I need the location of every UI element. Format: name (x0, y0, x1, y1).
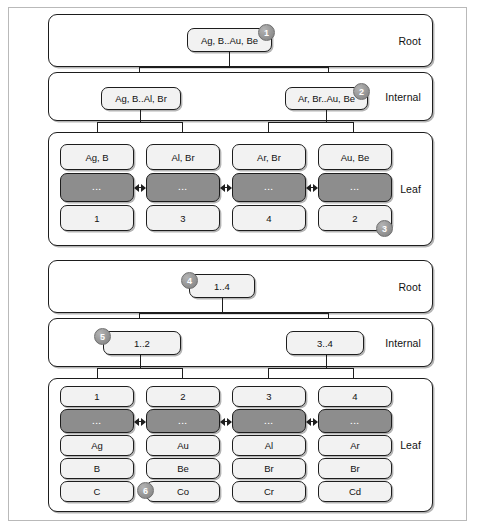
root-node-label-top: Ag, B..Au, Be (201, 35, 258, 46)
leaf-bottom-cell-0[interactable]: 1 (60, 205, 134, 231)
leaf-dots-cell-bottom-3: ... (318, 409, 392, 433)
root-node-label-bottom: 1..4 (214, 281, 230, 292)
leaf-bottom-cell-1[interactable]: 3 (146, 205, 220, 231)
connector-internal-stem-left-bottom (140, 355, 141, 368)
leaf-top-cell-1[interactable]: Al, Br (146, 144, 220, 170)
leaf-row-cell-bottom-2-1[interactable]: Br (232, 458, 306, 479)
connector-internal-bar-right-top (268, 122, 354, 123)
page-frame: Root Ag, B..Au, Be 1 Internal Ag, B..Al,… (8, 7, 467, 521)
callout-badge-2: 2 (353, 83, 370, 100)
leaf-layer-label-top: Leaf (400, 183, 421, 195)
internal-node-label-bottom-1: 3..4 (317, 338, 333, 349)
connector-root-bar-bottom (139, 313, 329, 314)
callout-badge-5: 5 (94, 328, 111, 345)
leaf-sibling-link-0-1-top (134, 183, 146, 192)
leaf-row-cell-bottom-0-2[interactable]: C (60, 481, 134, 502)
leaf-row-cell-bottom-1-2[interactable]: Co (146, 481, 220, 502)
internal-layer-label-top: Internal (385, 91, 421, 103)
callout-badge-1: 1 (258, 24, 275, 41)
leaf-layer-label-bottom: Leaf (400, 439, 421, 451)
internal-node-bottom-0[interactable]: 1..2 (103, 331, 181, 355)
leaf-top-cell-0[interactable]: Ag, B (60, 144, 134, 170)
leaf-dots-cell-0: ... (60, 173, 134, 202)
leaf-row-cell-bottom-3-2[interactable]: Cd (318, 481, 392, 502)
leaf-sibling-link-0-1-bottom (134, 417, 146, 426)
leaf-sibling-link-1-2-bottom (220, 417, 232, 426)
leaf-top-cell-bottom-1[interactable]: 2 (146, 386, 220, 407)
connector-internal-stem-left-top (140, 110, 141, 122)
leaf-sibling-link-2-3-top (306, 183, 318, 192)
leaf-row-cell-bottom-3-0[interactable]: Ar (318, 435, 392, 456)
leaf-row-cell-bottom-1-0[interactable]: Au (146, 435, 220, 456)
leaf-top-cell-bottom-3[interactable]: 4 (318, 386, 392, 407)
connector-root-stem-bottom (222, 298, 223, 314)
root-layer-label-top: Root (398, 35, 421, 47)
leaf-dots-cell-3: ... (318, 173, 392, 202)
leaf-top-cell-bottom-0[interactable]: 1 (60, 386, 134, 407)
connector-root-bar-top (139, 67, 329, 68)
leaf-dots-cell-bottom-0: ... (60, 409, 134, 433)
connector-internal-bar-left-bottom (97, 368, 183, 369)
internal-node-label-top-0: Ag, B..Al, Br (115, 93, 167, 104)
diagram-value-indexed-tree: Root Ag, B..Au, Be 1 Internal Ag, B..Al,… (9, 14, 468, 254)
internal-node-bottom-1[interactable]: 3..4 (286, 331, 364, 355)
leaf-row-cell-bottom-3-1[interactable]: Br (318, 458, 392, 479)
leaf-top-cell-2[interactable]: Ar, Br (232, 144, 306, 170)
leaf-row-cell-bottom-1-1[interactable]: Be (146, 458, 220, 479)
connector-root-stem-top (229, 52, 230, 68)
leaf-row-cell-bottom-2-2[interactable]: Cr (232, 481, 306, 502)
connector-internal-bar-right-bottom (268, 368, 354, 369)
internal-layer-label-bottom: Internal (385, 337, 421, 349)
internal-node-label-bottom-0: 1..2 (134, 338, 150, 349)
leaf-row-cell-bottom-0-1[interactable]: B (60, 458, 134, 479)
internal-node-label-top-1: Ar, Br..Au, Be (298, 93, 355, 104)
connector-internal-stem-right-top (326, 110, 327, 122)
leaf-row-cell-bottom-2-0[interactable]: Al (232, 435, 306, 456)
root-layer-label-bottom: Root (398, 281, 421, 293)
root-node-bottom[interactable]: 1..4 (189, 274, 255, 298)
internal-node-top-0[interactable]: Ag, B..Al, Br (101, 87, 181, 110)
leaf-dots-cell-bottom-1: ... (146, 409, 220, 433)
leaf-bottom-cell-2[interactable]: 4 (232, 205, 306, 231)
callout-badge-4: 4 (181, 272, 198, 289)
diagram-id-indexed-tree: Root 1..4 4 Internal 1..2 5 3..4 (9, 260, 468, 518)
leaf-top-cell-3[interactable]: Au, Be (318, 144, 392, 170)
connector-internal-stem-right-bottom (326, 355, 327, 368)
leaf-row-cell-bottom-0-0[interactable]: Ag (60, 435, 134, 456)
leaf-sibling-link-1-2-top (220, 183, 232, 192)
callout-badge-3: 3 (376, 220, 393, 237)
callout-badge-6: 6 (137, 482, 154, 499)
connector-internal-bar-left-top (97, 122, 183, 123)
leaf-dots-cell-2: ... (232, 173, 306, 202)
leaf-top-cell-bottom-2[interactable]: 3 (232, 386, 306, 407)
leaf-dots-cell-bottom-2: ... (232, 409, 306, 433)
leaf-dots-cell-1: ... (146, 173, 220, 202)
leaf-sibling-link-2-3-bottom (306, 417, 318, 426)
